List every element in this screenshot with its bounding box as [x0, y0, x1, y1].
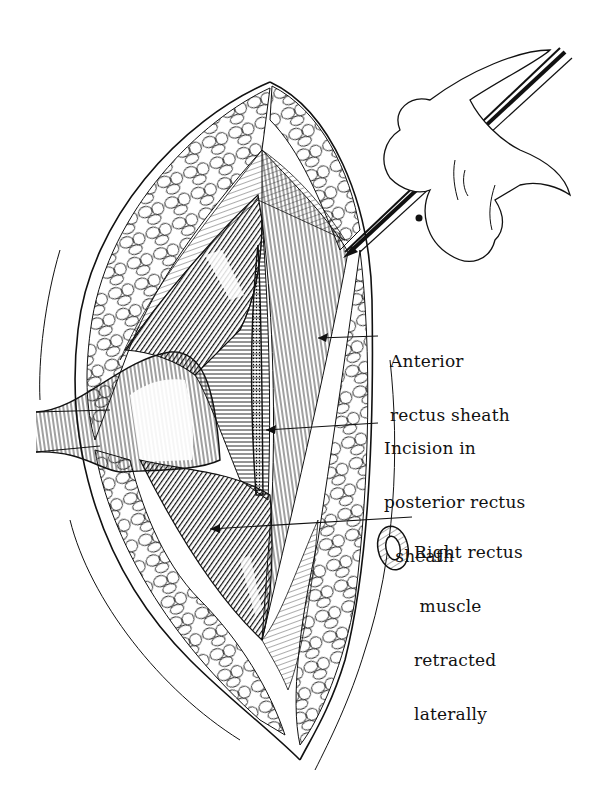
hand-spot [416, 215, 423, 222]
label-line: laterally [414, 705, 523, 723]
label-line: retracted [414, 651, 523, 669]
label-line: muscle [414, 597, 523, 615]
retractor-blade-highlight [130, 379, 193, 462]
surgeon-hand [384, 50, 570, 261]
label-line: Incision in [384, 439, 525, 457]
label-line: Anterior [390, 352, 510, 370]
label-right-rectus-muscle: Right rectus muscle retracted laterally [414, 507, 523, 741]
label-line: Right rectus [414, 543, 523, 561]
